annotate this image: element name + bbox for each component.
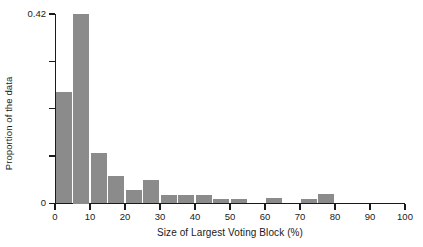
histogram-bars [0, 0, 423, 247]
x-axis-tick [299, 204, 300, 210]
x-axis-tick [404, 204, 405, 210]
y-axis-line [55, 14, 56, 204]
x-axis-tick-label: 50 [225, 212, 236, 222]
x-axis-tick-label: 90 [365, 212, 376, 222]
histogram-bar [73, 14, 89, 204]
x-axis-tick [124, 204, 125, 210]
x-axis-tick-label: 10 [85, 212, 96, 222]
y-axis-tick [49, 155, 55, 156]
y-axis-tick [49, 13, 55, 14]
histogram-bar [318, 194, 334, 204]
x-axis-tick [194, 204, 195, 210]
histogram-bar [108, 176, 124, 204]
histogram-figure: Proportion of the data 00.42 01020304050… [0, 0, 423, 247]
x-axis-tick [229, 204, 230, 210]
y-axis-tick-label: 0.42 [28, 9, 47, 19]
x-axis-tick [334, 204, 335, 210]
y-axis-tick [49, 108, 55, 109]
x-axis-tick [369, 204, 370, 210]
x-axis-tick-label: 80 [330, 212, 341, 222]
y-axis-title: Proportion of the data [0, 0, 16, 247]
histogram-bar [143, 180, 159, 203]
histogram-bar [126, 190, 142, 204]
histogram-bar [91, 153, 107, 204]
x-axis-title: Size of Largest Voting Block (%) [55, 227, 405, 238]
x-axis-tick-label: 60 [260, 212, 271, 222]
x-axis-tick-label: 0 [52, 212, 57, 222]
x-axis-tick [264, 204, 265, 210]
y-axis-tick-label: 0 [41, 198, 46, 208]
x-axis-tick [159, 204, 160, 210]
x-axis-tick [89, 204, 90, 210]
x-axis-tick-label: 20 [120, 212, 131, 222]
x-axis-tick-label: 30 [155, 212, 166, 222]
y-axis-tick [49, 61, 55, 62]
histogram-bar [56, 92, 72, 203]
x-axis-tick [54, 204, 55, 210]
x-axis-tick-label: 70 [295, 212, 306, 222]
x-axis-tick-label: 100 [397, 212, 413, 222]
x-axis-tick-label: 40 [190, 212, 201, 222]
